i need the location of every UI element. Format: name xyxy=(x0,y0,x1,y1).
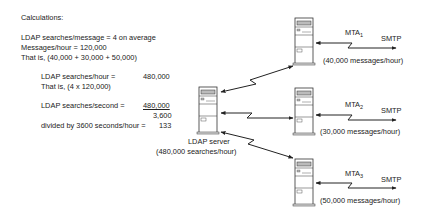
ldap-server-icon xyxy=(197,87,219,134)
mta3-load: (50,000 messages/hour) xyxy=(320,196,400,205)
mta1-protocol: SMTP xyxy=(381,34,402,43)
mta2-name: MTA2 xyxy=(345,100,363,110)
mta1-load: (40,000 messages/hour) xyxy=(323,56,403,65)
mta2-smtp-link xyxy=(316,115,396,120)
mta1-smtp-link xyxy=(316,43,396,48)
mta3-name: MTA3 xyxy=(345,169,363,179)
mta2-load: (30,000 messages/hour) xyxy=(320,127,400,136)
mta2-protocol: SMTP xyxy=(381,106,402,115)
ldap-server-load: (480,000 searches/hour) xyxy=(156,147,237,156)
mta1-name: MTA1 xyxy=(345,28,363,38)
ldap-mta2-link xyxy=(221,113,293,118)
mta2-server-icon xyxy=(293,88,315,135)
mta1-server-icon xyxy=(293,18,315,65)
mta3-server-icon xyxy=(293,159,315,206)
ldap-mta1-link xyxy=(221,66,293,92)
mta3-protocol: SMTP xyxy=(381,175,402,184)
ldap-server-name: LDAP server xyxy=(188,137,230,146)
